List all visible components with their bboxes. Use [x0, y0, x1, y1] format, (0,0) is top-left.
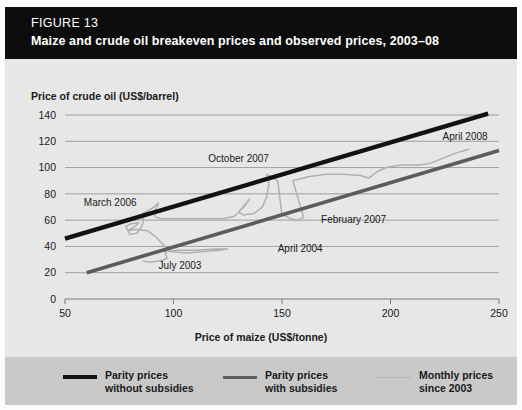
figure-number-label: FIGURE 13	[31, 15, 517, 31]
legend-label-line1: Monthly prices	[419, 369, 493, 381]
x-axis-ticks: 50100150200250	[59, 299, 508, 319]
page-margin-right	[517, 0, 522, 410]
y-tick-label-20: 20	[44, 266, 56, 278]
legend-label-line2: without subsidies	[105, 382, 194, 394]
y-tick-label-40: 40	[44, 240, 56, 252]
legend-label-line2: with subsidies	[265, 382, 337, 394]
chart-annotations: July 2003April 2004March 2006February 20…	[84, 131, 488, 271]
legend-item-parity-with-subsidies[interactable]: Parity prices with subsidies	[223, 369, 337, 395]
annotation-july-2003: July 2003	[159, 260, 202, 271]
chart-legend: Parity prices without subsidies Parity p…	[5, 357, 517, 405]
annotation-february-2007: February 2007	[321, 214, 386, 225]
annotation-october-2007: October 2007	[208, 153, 269, 164]
x-tick-label-100: 100	[165, 307, 183, 319]
legend-label-parity-without-subsidies: Parity prices without subsidies	[105, 369, 194, 395]
x-tick-label-200: 200	[382, 307, 400, 319]
page-margin-bottom	[0, 405, 522, 410]
y-tick-label-80: 80	[44, 188, 56, 200]
y-tick-label-60: 60	[44, 214, 56, 226]
figure-container: FIGURE 13 Maize and crude oil breakeven …	[0, 0, 522, 410]
chart-svg: 020406080100120140 50100150200250 July 2…	[5, 59, 517, 357]
legend-label-line1: Parity prices	[105, 369, 168, 381]
annotation-march-2006: March 2006	[84, 197, 137, 208]
legend-label-monthly-prices: Monthly prices since 2003	[419, 369, 493, 395]
page-margin-top	[0, 0, 522, 7]
legend-item-monthly-prices[interactable]: Monthly prices since 2003	[377, 369, 493, 395]
legend-swatch-medium-gray-line	[223, 376, 257, 379]
y-tick-label-0: 0	[50, 293, 56, 305]
legend-swatch-thin-light-line	[377, 377, 411, 379]
legend-swatch-thick-black-line	[63, 375, 97, 379]
x-tick-label-150: 150	[273, 307, 291, 319]
legend-item-parity-without-subsidies[interactable]: Parity prices without subsidies	[63, 369, 194, 395]
y-axis-ticks: 020406080100120140	[38, 109, 56, 305]
y-tick-label-140: 140	[38, 109, 56, 121]
figure-title: Maize and crude oil breakeven prices and…	[31, 32, 517, 50]
y-tick-label-120: 120	[38, 135, 56, 147]
annotation-april-2004: April 2004	[278, 243, 323, 254]
legend-label-parity-with-subsidies: Parity prices with subsidies	[265, 369, 337, 395]
page-margin-left	[0, 0, 5, 410]
chart-plot-area: Price of crude oil (US$/barrel) Price of…	[5, 59, 517, 357]
y-tick-label-100: 100	[38, 161, 56, 173]
legend-label-line1: Parity prices	[265, 369, 328, 381]
legend-label-line2: since 2003	[419, 382, 472, 394]
annotation-april-2008: April 2008	[443, 131, 488, 142]
x-tick-label-50: 50	[59, 307, 71, 319]
x-tick-label-250: 250	[490, 307, 508, 319]
figure-header-bar: FIGURE 13 Maize and crude oil breakeven …	[5, 7, 517, 59]
